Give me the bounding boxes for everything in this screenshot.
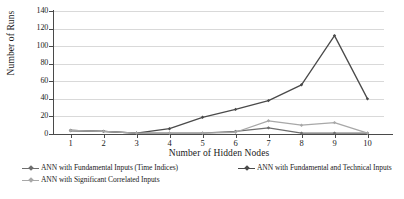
data-point-marker [300, 124, 303, 127]
legend-marker-icon [238, 164, 255, 172]
x-axis-tick-label: 8 [292, 139, 312, 148]
data-point-marker [267, 119, 270, 122]
y-axis-tick-label: 140 [0, 7, 48, 15]
x-axis-title: Number of Hidden Nodes [54, 148, 384, 158]
y-axis-tick-label: 40 [0, 94, 48, 102]
x-axis-tick-label: 1 [61, 139, 81, 148]
legend-row-1: ANN with Fundamental Inputs (Time Indice… [22, 163, 394, 175]
y-axis-tick-label: 60 [0, 77, 48, 85]
y-axis-tick-value: 100 [18, 42, 48, 50]
series-3 [69, 119, 369, 135]
legend-label: ANN with Fundamental and Technical Input… [257, 163, 392, 173]
x-axis-tick-label: 10 [358, 139, 378, 148]
data-point-marker [333, 121, 336, 124]
plot-area [54, 11, 384, 134]
data-point-marker [201, 116, 204, 119]
y-axis-tick-label: 80 [0, 59, 48, 67]
y-axis-tick-value: 120 [18, 24, 48, 32]
y-axis-tick-value: 40 [18, 94, 48, 102]
legend-marker-icon [22, 164, 39, 172]
series-line [71, 36, 368, 134]
legend-marker-icon [22, 176, 39, 184]
data-point-marker [168, 127, 171, 130]
y-axis-tick-label: 100 [0, 42, 48, 50]
x-axis-tick-label: 3 [127, 139, 147, 148]
y-axis-tick-value: 0 [18, 130, 48, 138]
series-line [71, 121, 368, 133]
y-axis-tick-value: 60 [18, 77, 48, 85]
x-axis-tick-label: 5 [193, 139, 213, 148]
series-1 [69, 126, 369, 135]
chart-figure: Number of Runs 020406080100120140 123456… [0, 0, 404, 199]
series-2 [69, 34, 369, 135]
y-axis-tick-value: 140 [18, 7, 48, 15]
legend-row-2: ANN with Significant Correlated Inputs [22, 175, 394, 187]
legend-label: ANN with Significant Correlated Inputs [41, 175, 160, 185]
data-point-marker [69, 129, 72, 132]
data-point-marker [234, 108, 237, 111]
y-axis-tick-label: 120 [0, 24, 48, 32]
chart-legend: ANN with Fundamental Inputs (Time Indice… [22, 163, 394, 187]
x-axis-tick-label: 2 [94, 139, 114, 148]
x-axis-tick-label: 7 [259, 139, 279, 148]
legend-label: ANN with Fundamental Inputs (Time Indice… [41, 163, 178, 173]
x-axis-tick-label: 4 [160, 139, 180, 148]
data-point-marker [102, 130, 105, 133]
y-axis-tick-value: 80 [18, 59, 48, 67]
data-point-marker [267, 126, 270, 129]
series-lines [54, 11, 384, 134]
y-axis-tick-value: 20 [18, 112, 48, 120]
x-axis-tick-label: 9 [325, 139, 345, 148]
y-axis-tick-label: 0 [0, 130, 48, 138]
y-axis-tick-label: 20 [0, 112, 48, 120]
legend-item-fundamental-time-indices[interactable]: ANN with Fundamental Inputs (Time Indice… [22, 163, 238, 173]
legend-item-fundamental-technical[interactable]: ANN with Fundamental and Technical Input… [238, 163, 392, 173]
legend-item-significant-correlated[interactable]: ANN with Significant Correlated Inputs [22, 175, 238, 185]
x-axis-tick-label: 6 [226, 139, 246, 148]
